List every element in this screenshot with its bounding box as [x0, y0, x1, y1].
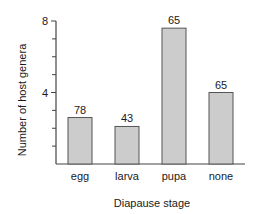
y-axis-label: Number of host genera	[16, 43, 28, 156]
y-tick-label: 4	[42, 87, 48, 99]
x-tick-label: pupa	[162, 170, 187, 182]
bar-larva	[115, 126, 139, 164]
bar-chart: 48 78egg43larva65pupa65none Number of ho…	[0, 0, 256, 214]
bar-value-label: 65	[168, 14, 180, 26]
bar-value-label: 65	[215, 79, 227, 91]
bar-none	[209, 93, 233, 165]
bar-pupa	[162, 28, 186, 164]
x-tick-label: none	[209, 170, 233, 182]
x-tick-label: larva	[115, 170, 140, 182]
bars: 78egg43larva65pupa65none	[68, 14, 233, 182]
y-tick-label: 8	[42, 15, 48, 27]
bar-value-label: 78	[74, 104, 86, 116]
bar-egg	[68, 118, 92, 164]
x-axis-label: Diapause stage	[114, 197, 190, 209]
x-tick-label: egg	[71, 170, 89, 182]
chart-canvas: 48 78egg43larva65pupa65none Number of ho…	[0, 0, 256, 214]
bar-value-label: 43	[121, 112, 133, 124]
